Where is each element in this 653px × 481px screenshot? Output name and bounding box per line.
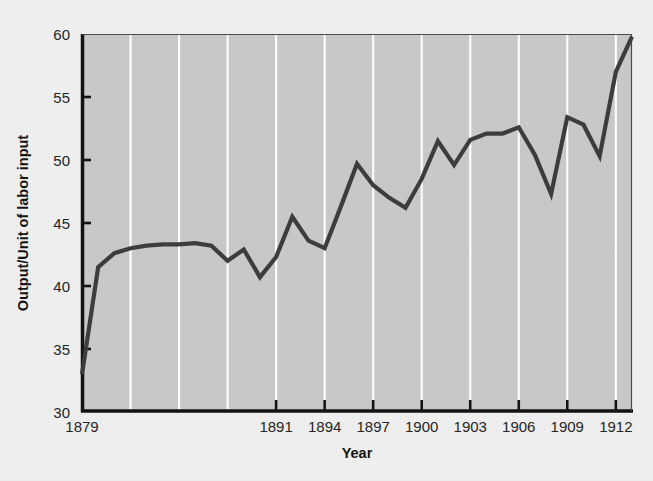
- x-tick-label: 1903: [454, 418, 487, 435]
- x-tick-label: 1912: [599, 418, 632, 435]
- x-axis-tick-labels: 187918911894189719001903190619091912: [65, 418, 632, 435]
- x-tick-label: 1894: [308, 418, 341, 435]
- y-tick-label: 40: [53, 278, 70, 295]
- x-tick-label: 1897: [356, 418, 389, 435]
- y-tick-label: 35: [53, 341, 70, 358]
- y-tick-label: 60: [53, 26, 70, 43]
- x-tick-label: 1906: [502, 418, 535, 435]
- x-tick-label: 1900: [405, 418, 438, 435]
- x-tick-label: 1879: [65, 418, 98, 435]
- y-tick-label: 45: [53, 215, 70, 232]
- x-tick-label: 1891: [259, 418, 292, 435]
- line-chart: 30354045505560 1879189118941897190019031…: [0, 0, 653, 481]
- chart-figure: 30354045505560 1879189118941897190019031…: [0, 0, 653, 481]
- y-axis-tick-labels: 30354045505560: [53, 26, 70, 421]
- x-axis-title: Year: [342, 445, 373, 461]
- y-tick-label: 50: [53, 152, 70, 169]
- y-tick-label: 55: [53, 89, 70, 106]
- y-axis-title: Output/Unit of labor input: [15, 135, 31, 312]
- plot-area-background: [82, 34, 632, 412]
- x-tick-label: 1909: [551, 418, 584, 435]
